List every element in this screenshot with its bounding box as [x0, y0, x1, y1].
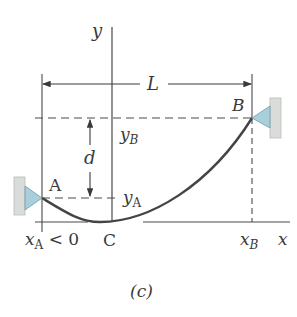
label-x-axis: x: [278, 229, 288, 249]
figure-caption: (c): [130, 281, 153, 301]
right-wall: [270, 98, 281, 138]
label-d: d: [84, 147, 96, 168]
label-yb: yB: [119, 124, 139, 147]
label-point-b: B: [231, 95, 245, 115]
cable-diagram: L d yB yA y A B C xA < 0 xB x (c): [0, 0, 297, 317]
label-xa: xA < 0: [25, 229, 79, 252]
label-y-axis: y: [91, 20, 103, 41]
right-pin-support: [252, 106, 270, 128]
cable-curve: [42, 118, 252, 222]
label-point-c: C: [103, 230, 116, 250]
label-xb: xB: [240, 229, 259, 252]
left-pin-support: [25, 186, 42, 210]
label-l: L: [146, 73, 159, 94]
label-ya: yA: [122, 187, 142, 210]
left-wall: [14, 177, 25, 215]
label-point-a: A: [48, 175, 62, 195]
